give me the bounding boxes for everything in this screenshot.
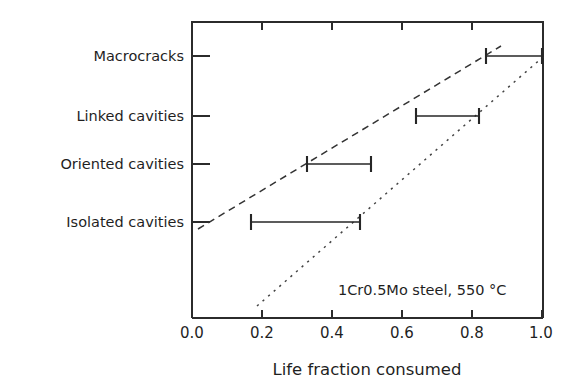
error-bar-isolated-cavities xyxy=(251,214,360,230)
error-bar-macrocracks xyxy=(486,48,542,64)
x-tick-label-1: 0.2 xyxy=(250,324,274,342)
x-tick-label-2: 0.4 xyxy=(320,324,344,342)
x-axis-ticks xyxy=(192,310,542,318)
x-axis-title: Life fraction consumed xyxy=(273,360,462,379)
y-axis-label-isolated-cavities: Isolated cavities xyxy=(66,214,184,230)
x-tick-label-5: 1.0 xyxy=(529,324,553,342)
plot-frame xyxy=(192,22,543,318)
x-tick-label-3: 0.6 xyxy=(390,324,414,342)
trend-line-dotted xyxy=(257,57,543,306)
y-axis-ticks xyxy=(192,56,210,222)
chart-plot-area: Macrocracks Linked cavities Oriented cav… xyxy=(0,0,586,390)
x-tick-label-0: 0.0 xyxy=(180,324,204,342)
chart-figure: Macrocracks Linked cavities Oriented cav… xyxy=(0,0,586,390)
plot-annotation: 1Cr0.5Mo steel, 550 °C xyxy=(338,282,506,298)
error-bar-oriented-cavities xyxy=(307,156,371,172)
y-axis-label-oriented-cavities: Oriented cavities xyxy=(60,156,184,172)
trend-line-dashed xyxy=(198,46,501,229)
y-axis-label-macrocracks: Macrocracks xyxy=(93,48,184,64)
x-tick-label-4: 0.8 xyxy=(460,324,484,342)
top-frame-ticks xyxy=(262,22,472,30)
y-axis-label-linked-cavities: Linked cavities xyxy=(76,108,184,124)
